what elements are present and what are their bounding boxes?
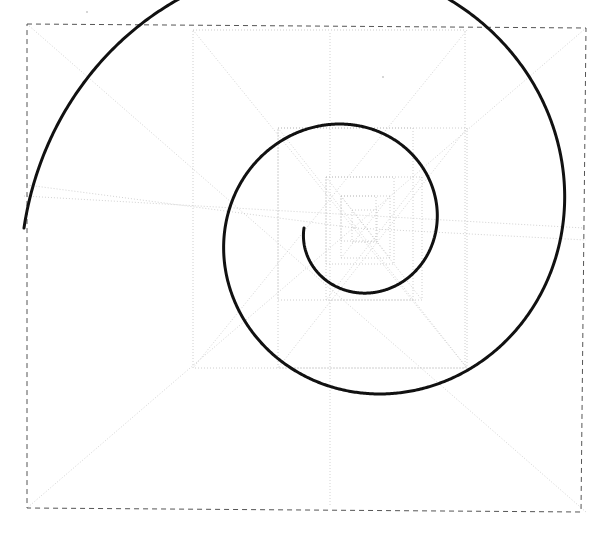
spiral-figure-canvas (0, 0, 605, 537)
spiral-figure-svg (0, 0, 605, 537)
figure-background (0, 0, 605, 537)
ink-speck-0 (86, 11, 88, 13)
ink-speck-1 (382, 76, 384, 78)
